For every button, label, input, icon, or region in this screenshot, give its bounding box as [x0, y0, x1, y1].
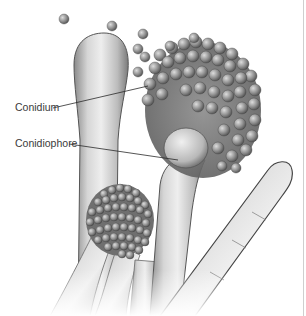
conidial-head-large — [142, 36, 261, 178]
label-conidiophore: Conidiophore — [15, 138, 77, 149]
label-conidium: Conidium — [15, 102, 59, 113]
right-border-line — [303, 0, 304, 316]
illustration-svg — [0, 0, 306, 316]
conidiophore-illustration: Conidium Conidiophore — [0, 0, 306, 316]
